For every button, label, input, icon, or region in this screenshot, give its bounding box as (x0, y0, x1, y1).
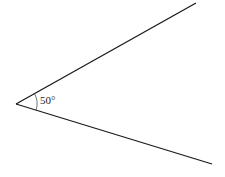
angle-label: 50° (40, 94, 55, 106)
angle-arc (35, 94, 38, 111)
lower-ray (16, 104, 212, 164)
angle-diagram: 50° (0, 0, 225, 177)
upper-ray (16, 3, 196, 104)
